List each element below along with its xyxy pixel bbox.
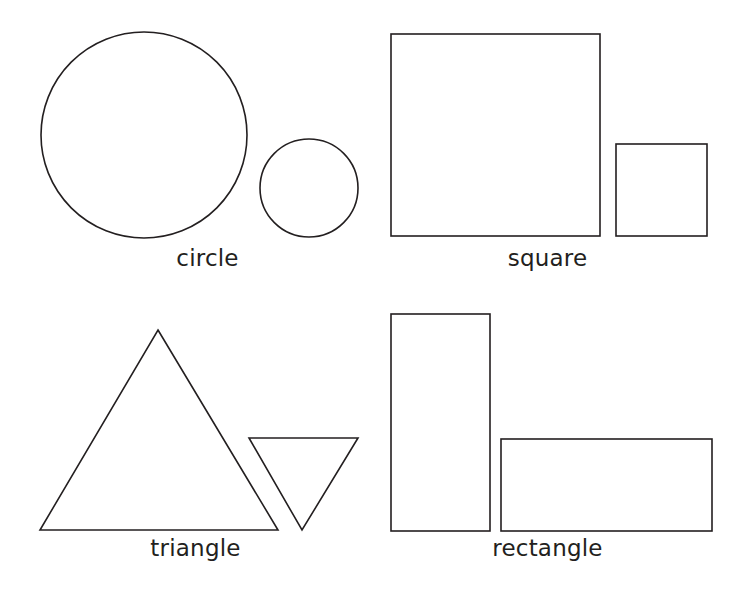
- shapes-figure: [0, 0, 739, 598]
- triangle-group: [40, 330, 358, 530]
- rectangle-group: [391, 314, 712, 531]
- rectangle-label: rectangle: [440, 537, 655, 560]
- tall-rectangle-shape: [391, 314, 490, 531]
- large-square-shape: [391, 34, 600, 236]
- circle-label: circle: [100, 247, 315, 270]
- shapes-canvas: circle square triangle rectangle: [0, 0, 739, 598]
- circle-group: [41, 32, 358, 238]
- small-circle-shape: [260, 139, 358, 237]
- large-circle-shape: [41, 32, 247, 238]
- large-triangle-shape: [40, 330, 278, 530]
- triangle-label: triangle: [88, 537, 303, 560]
- wide-rectangle-shape: [501, 439, 712, 531]
- small-square-shape: [616, 144, 707, 236]
- square-group: [391, 34, 707, 236]
- square-label: square: [440, 247, 655, 270]
